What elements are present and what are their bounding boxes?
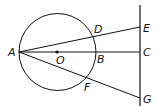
label-b: B (97, 53, 105, 66)
segment-ag (19, 52, 140, 98)
label-o: O (56, 54, 65, 67)
label-e: E (143, 22, 150, 35)
label-d: D (94, 23, 102, 36)
label-a: A (7, 46, 16, 59)
label-c: C (143, 46, 151, 59)
geometry-diagram: A O B D F E C G (0, 0, 159, 108)
label-f: F (84, 81, 91, 94)
segment-ae (19, 27, 140, 52)
label-g: G (143, 93, 152, 106)
